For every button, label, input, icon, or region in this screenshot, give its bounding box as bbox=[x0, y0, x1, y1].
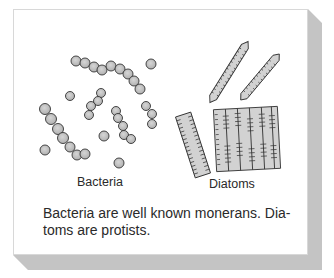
bacteria-cells bbox=[40, 56, 157, 168]
diatoms-label: Diatoms bbox=[209, 177, 255, 191]
caption-line-2: toms are protists. bbox=[43, 222, 293, 239]
diatoms bbox=[176, 39, 283, 178]
figure-stage: Bacteria Diatoms Bacteria are well known… bbox=[0, 0, 334, 278]
caption-line-1: Bacteria are well known monerans. Dia- bbox=[43, 205, 293, 222]
figure-caption: Bacteria are well known monerans. Dia- t… bbox=[43, 205, 293, 239]
bacteria-label: Bacteria bbox=[77, 175, 123, 189]
